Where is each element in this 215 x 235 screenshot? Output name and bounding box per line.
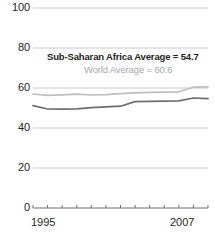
annotation-world-average: World Average = 60.6: [84, 64, 172, 75]
annotation-ssa-average: Sub-Saharan Africa Average = 54.7: [47, 51, 199, 62]
x-axis-tick-label-start: 1995: [31, 216, 55, 228]
plot-area: [0, 0, 215, 235]
gridlines: [33, 8, 208, 168]
series-lines: [33, 87, 208, 109]
x-axis-tick-label-end: 2007: [170, 216, 194, 228]
line-chart: 100 80 60 40 20 0 Sub-Saharan Africa Ave…: [0, 0, 215, 235]
series-line-sub-saharan-africa-average: [33, 98, 208, 109]
